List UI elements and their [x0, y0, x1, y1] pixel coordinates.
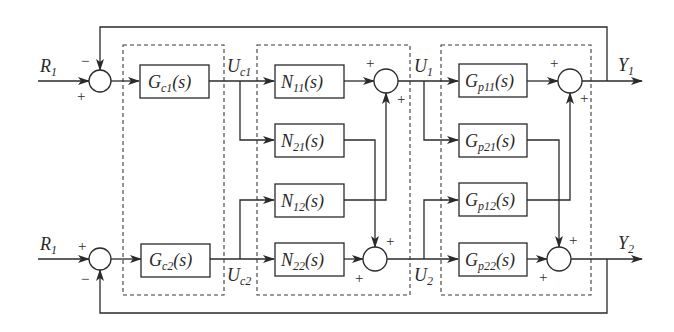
- summing-junction-plant-2: [547, 247, 571, 271]
- block-gp11: Gp11(s): [459, 64, 527, 97]
- block-gp21: Gp21(s): [459, 124, 527, 157]
- signal-uc1-to-n21: [240, 81, 274, 140]
- signal-gp21-out: [527, 140, 559, 247]
- signal-uc2-to-n12: [240, 200, 274, 259]
- signal-u1-to-gp21: [424, 81, 458, 140]
- sign-minus: −: [81, 271, 89, 287]
- sign-plus: +: [550, 55, 558, 71]
- block-n21: N21(s): [275, 124, 344, 157]
- sign-plus: +: [77, 88, 85, 104]
- block-n11: N11(s): [275, 65, 344, 98]
- block-gc1: Gc1(s): [140, 65, 209, 98]
- sign-plus: +: [386, 233, 394, 249]
- signal-n12-out: [344, 93, 386, 200]
- output-label-y1: Y1: [618, 55, 634, 78]
- signal-label-u1: U1: [414, 56, 433, 79]
- sign-plus: +: [366, 55, 374, 71]
- summing-junction-decoupler-1: [374, 69, 398, 93]
- block-gc2: Gc2(s): [141, 244, 210, 277]
- signal-u2-to-gp12: [424, 200, 458, 259]
- sign-plus: +: [355, 270, 363, 286]
- input-label-r1-bottom: R1: [39, 234, 57, 257]
- signal-label-uc1: Uc1: [227, 56, 251, 79]
- sign-plus: +: [397, 91, 405, 107]
- signal-label-u2: U2: [414, 265, 433, 288]
- signal-gp12-out: [527, 93, 570, 200]
- block-gp22: Gp22(s): [459, 243, 527, 276]
- sign-plus: +: [580, 90, 588, 106]
- summing-junction-decoupler-2: [363, 247, 387, 271]
- output-label-y2: Y2: [618, 233, 634, 256]
- block-n12: N12(s): [275, 184, 344, 217]
- summing-junction-plant-1: [558, 69, 582, 93]
- sign-plus: +: [539, 269, 547, 285]
- summing-junction-input-2: [89, 248, 111, 270]
- sign-plus: +: [78, 238, 86, 254]
- block-diagram: R1 R1 − + + − Gc1(s) Gc2(s) Uc1 Uc2 N11(…: [0, 0, 674, 332]
- signal-label-uc2: Uc2: [227, 265, 251, 288]
- sign-minus: −: [81, 53, 89, 69]
- block-n22: N22(s): [275, 243, 344, 276]
- summing-junction-input-1: [89, 70, 111, 92]
- sign-plus: +: [569, 232, 577, 248]
- input-label-r1-top: R1: [39, 56, 57, 79]
- block-gp12: Gp12(s): [459, 183, 527, 216]
- signal-n21-out: [344, 140, 375, 247]
